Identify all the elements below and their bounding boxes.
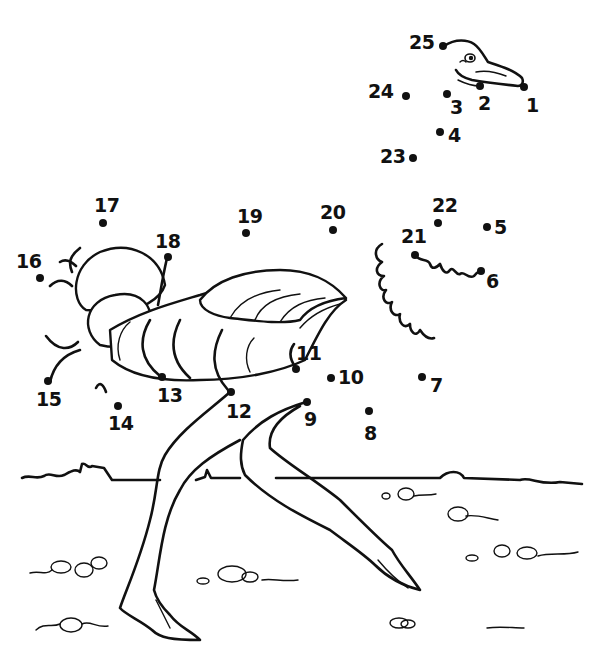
dot-number-label: 13: [157, 386, 182, 405]
dot-21[interactable]: [411, 251, 419, 259]
dot-number-label: 8: [364, 424, 377, 443]
dot-number-label: 25: [409, 33, 434, 52]
dot-number-label: 20: [320, 203, 345, 222]
ostrich-back-leg: [120, 392, 240, 640]
dot-1[interactable]: [520, 83, 528, 91]
dot-number-label: 24: [368, 82, 393, 101]
dot-7[interactable]: [418, 373, 426, 381]
dot-16[interactable]: [36, 274, 44, 282]
dot-11[interactable]: [292, 365, 300, 373]
dot-10[interactable]: [327, 374, 335, 382]
ostrich-line-art: [0, 0, 602, 658]
dot-number-label: 14: [108, 414, 133, 433]
pebbles: [30, 488, 578, 632]
dot-19[interactable]: [242, 229, 250, 237]
dot-22[interactable]: [434, 219, 442, 227]
dot-6[interactable]: [477, 267, 485, 275]
dot-24[interactable]: [402, 92, 410, 100]
dot-number-label: 18: [155, 232, 180, 251]
dot-number-label: 19: [237, 207, 262, 226]
dot-18[interactable]: [164, 253, 172, 261]
dot-number-label: 12: [226, 402, 251, 421]
dot-number-label: 7: [430, 376, 443, 395]
ground-line: [22, 464, 160, 480]
dot-13[interactable]: [158, 373, 166, 381]
dot-number-label: 23: [380, 147, 405, 166]
dot-number-label: 2: [478, 94, 491, 113]
dot-8[interactable]: [365, 407, 373, 415]
dot-25[interactable]: [439, 42, 447, 50]
dot-17[interactable]: [99, 219, 107, 227]
dot-number-label: 16: [16, 252, 41, 271]
dot-4[interactable]: [436, 128, 444, 136]
dot-number-label: 10: [338, 368, 363, 387]
dot-number-label: 6: [486, 272, 499, 291]
dot-to-dot-sheet: 1234567891011121314151617181920212223242…: [0, 0, 602, 658]
dot-number-label: 5: [494, 218, 507, 237]
dot-number-label: 15: [36, 390, 61, 409]
dot-23[interactable]: [409, 154, 417, 162]
dot-5[interactable]: [483, 223, 491, 231]
ostrich-front-leg: [241, 402, 420, 590]
ostrich-head: [444, 41, 523, 87]
dot-20[interactable]: [329, 226, 337, 234]
dot-number-label: 3: [450, 98, 463, 117]
dot-2[interactable]: [476, 82, 484, 90]
dot-12[interactable]: [227, 388, 235, 396]
dot-15[interactable]: [44, 377, 52, 385]
dot-number-label: 1: [526, 96, 539, 115]
dot-number-label: 11: [296, 344, 321, 363]
dot-14[interactable]: [114, 402, 122, 410]
dot-number-label: 22: [432, 196, 457, 215]
dot-number-label: 17: [94, 196, 119, 215]
neck-squiggle-left: [376, 244, 434, 339]
dot-number-label: 9: [304, 410, 317, 429]
dot-number-label: 21: [401, 227, 426, 246]
dot-number-label: 4: [448, 126, 461, 145]
dot-9[interactable]: [303, 398, 311, 406]
neck-squiggle-right: [416, 256, 482, 277]
